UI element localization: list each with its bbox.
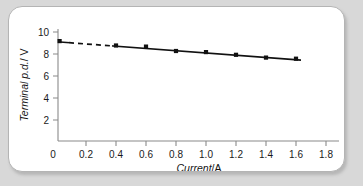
data-point [58, 39, 62, 43]
y-axis-title-quantity: Terminal p.d. [18, 61, 30, 121]
data-point [174, 49, 178, 53]
figure-card: 10 8 6 4 2 0 0.2 0.4 0.6 0.8 [8, 6, 345, 172]
data-point [114, 43, 118, 47]
x-axis-title-quantity: Current [177, 162, 213, 172]
data-point [234, 53, 238, 57]
data-point [204, 50, 208, 54]
x-tick-label-0-4: 0.4 [109, 149, 123, 160]
terminal-pd-vs-current-chart: 10 8 6 4 2 0 0.2 0.4 0.6 0.8 [9, 7, 345, 172]
data-point [264, 56, 268, 60]
x-tick-label-1-4: 1.4 [259, 149, 273, 160]
x-axis-ticks [86, 141, 326, 146]
x-tick-label-1-6: 1.6 [289, 149, 303, 160]
y-tick-label-6: 6 [43, 71, 49, 82]
y-tick-label-10: 10 [38, 27, 50, 38]
y-axis-title: Terminal p.d./ V [18, 48, 30, 121]
x-axis-title-unit: /A [212, 162, 222, 172]
x-tick-label-0-2: 0.2 [79, 149, 93, 160]
x-tick-label-0-6: 0.6 [139, 149, 153, 160]
data-point [294, 57, 298, 61]
y-tick-label-4: 4 [43, 93, 49, 104]
x-tick-label-0: 0 [50, 149, 56, 160]
x-tick-label-0-8: 0.8 [169, 149, 183, 160]
y-axis-title-unit: / V [18, 48, 30, 61]
x-tick-label-1-0: 1.0 [199, 149, 213, 160]
y-tick-label-2: 2 [43, 115, 49, 126]
y-tick-label-8: 8 [43, 49, 49, 60]
x-tick-label-1-8: 1.8 [319, 149, 333, 160]
x-axis-title: Current/A [177, 162, 222, 172]
chart-plot-area: 10 8 6 4 2 0 0.2 0.4 0.6 0.8 [9, 7, 345, 172]
data-point [144, 45, 148, 49]
x-tick-label-1-2: 1.2 [229, 149, 243, 160]
y-axis-ticks [53, 32, 58, 120]
